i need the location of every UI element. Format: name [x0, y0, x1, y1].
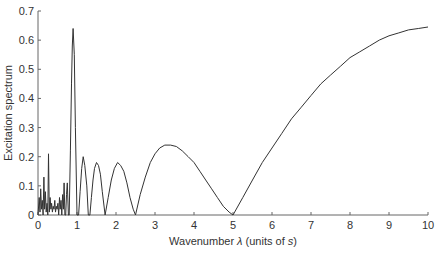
y-tick-label: 0 [28, 209, 34, 221]
y-axis: 00.10.20.30.40.50.60.7 [19, 5, 41, 221]
y-tick-label: 0.3 [19, 122, 34, 134]
x-tick-label: 7 [308, 219, 314, 231]
spectrum-line [38, 27, 428, 215]
x-tick-label: 9 [386, 219, 392, 231]
y-tick-label: 0.4 [19, 92, 34, 104]
y-tick-label: 0.7 [19, 5, 34, 17]
x-tick-label: 5 [230, 219, 236, 231]
x-tick-label: 10 [422, 219, 434, 231]
x-tick-label: 2 [113, 219, 119, 231]
x-tick-label: 6 [269, 219, 275, 231]
y-tick-label: 0.1 [19, 180, 34, 192]
x-tick-label: 0 [35, 219, 41, 231]
x-tick-label: 1 [74, 219, 80, 231]
x-axis: 012345678910 [35, 212, 434, 231]
x-axis-title: Wavenumber λ (units of s) [169, 235, 297, 247]
x-tick-label: 3 [152, 219, 158, 231]
y-tick-label: 0.2 [19, 151, 34, 163]
y-tick-label: 0.6 [19, 34, 34, 46]
y-tick-label: 0.5 [19, 63, 34, 75]
excitation-spectrum-chart: 00.10.20.30.40.50.60.7 012345678910 Exci… [0, 0, 438, 253]
y-axis-title: Excitation spectrum [2, 65, 14, 161]
x-tick-label: 8 [347, 219, 353, 231]
x-tick-label: 4 [191, 219, 197, 231]
